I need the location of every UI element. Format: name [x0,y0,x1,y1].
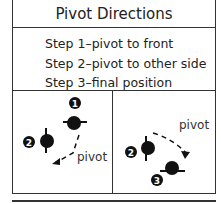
title: Pivot Directions [13,0,215,28]
panel-2-diagram: 2 3 [113,91,216,194]
step-2: Step 2–pivot to other side [45,54,206,74]
pivot-directions-box: Pivot Directions Step 1–pivot to front S… [12,0,216,194]
bottom-rule [12,200,216,202]
svg-text:2: 2 [128,148,134,158]
panel-1-pivot-label: pivot [77,150,107,164]
panel-2-pivot-label: pivot [179,118,209,132]
svg-text:3: 3 [154,176,160,186]
svg-text:1: 1 [72,99,78,109]
steps-list: Step 1–pivot to front Step 2–pivot to ot… [45,34,206,93]
panel-1-diagram: 1 2 [13,91,112,194]
step-1: Step 1–pivot to front [45,34,206,54]
svg-text:2: 2 [26,138,32,148]
